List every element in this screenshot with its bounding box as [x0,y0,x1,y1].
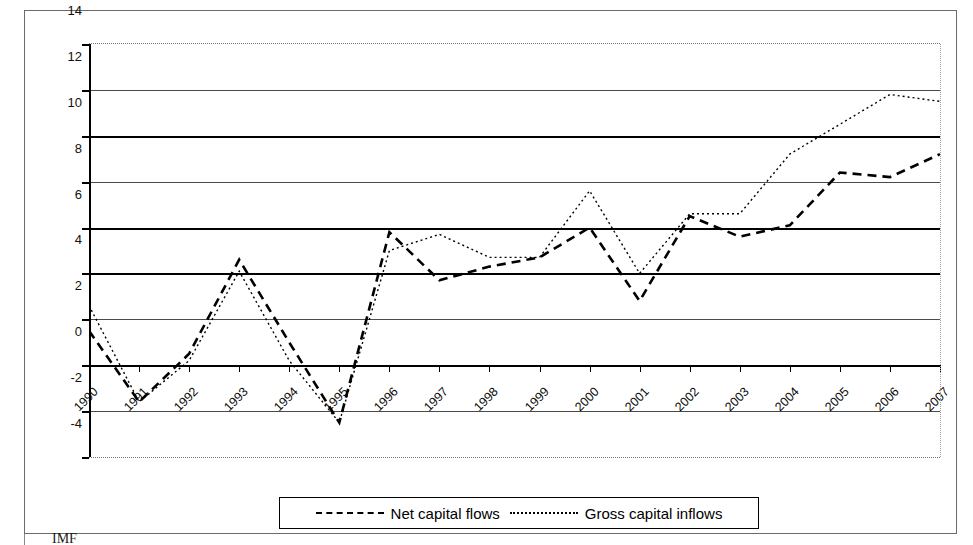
y-tick-mark-4 [82,273,89,275]
y-tick-label-12: 12 [38,50,82,63]
y-tick-mark--4 [82,457,89,459]
y-tick-mark-8 [82,182,89,184]
series-line-net-capital-flows [89,154,940,423]
dashed-line-swatch [316,512,384,514]
y-tick-label-10: 10 [38,96,82,109]
y-tick-mark-12 [82,90,89,92]
y-tick-mark-2 [82,319,89,321]
plot-bottom-edge [89,457,940,458]
y-tick-mark-6 [82,228,89,230]
legend-label-gross-capital-inflows: Gross capital inflows [585,506,723,521]
series-lines [89,44,940,457]
legend-item-net-capital-flows: Net capital flows [316,506,500,521]
y-tick-label-8: 8 [38,142,82,155]
y-tick-mark-14 [82,44,89,46]
y-tick-mark-0 [82,365,89,367]
y-tick-label-14: 14 [38,4,82,17]
plot-right-edge [940,44,941,457]
series-line-gross-capital-inflows [89,95,940,423]
y-tick-label-6: 6 [38,188,82,201]
y-tick-label-4: 4 [38,233,82,246]
plot-area [89,44,940,457]
line-chart: 14121086420-2-4 199019911992199319941995… [24,10,957,534]
y-tick-mark-10 [82,136,89,138]
y-tick-label--4: -4 [38,417,82,430]
source-footnote: IMF [52,532,77,545]
legend-item-gross-capital-inflows: Gross capital inflows [510,506,723,521]
legend: Net capital flows Gross capital inflows [279,497,759,529]
y-axis: 14121086420-2-4 [32,10,82,423]
y-tick-label-2: 2 [38,279,82,292]
y-tick-label-0: 0 [38,325,82,338]
y-tick-label--2: -2 [38,371,82,384]
dotted-line-swatch [510,512,578,514]
legend-label-net-capital-flows: Net capital flows [391,506,500,521]
